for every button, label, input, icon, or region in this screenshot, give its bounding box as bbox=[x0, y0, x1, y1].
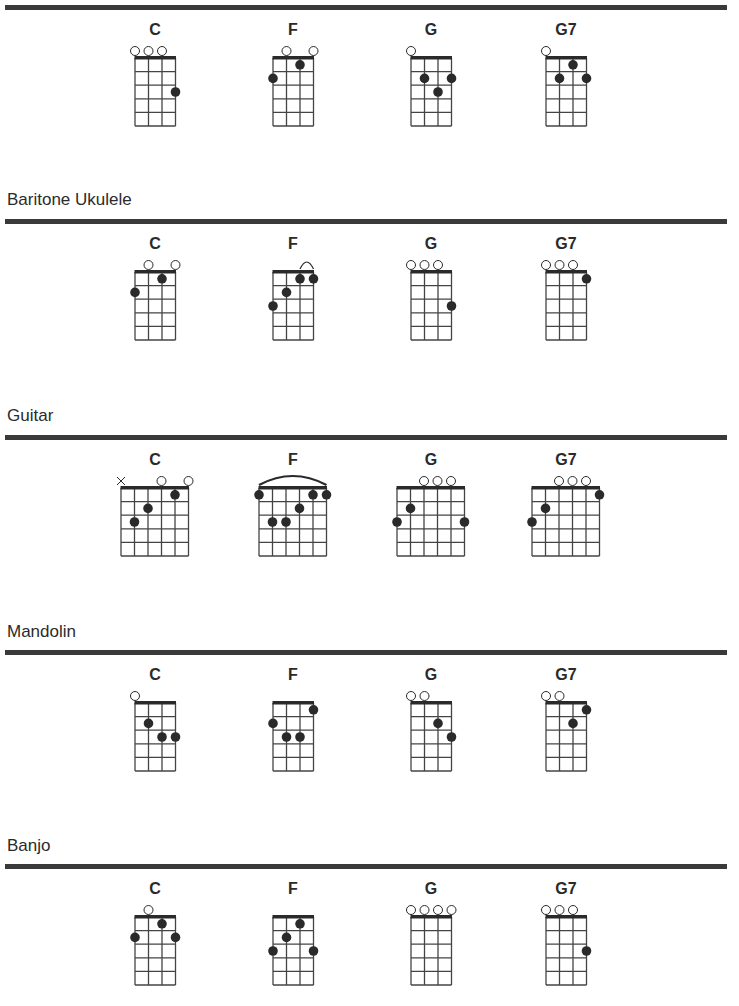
open-string-icon bbox=[157, 47, 166, 56]
open-string-icon bbox=[568, 261, 577, 270]
open-string-icon bbox=[568, 906, 577, 915]
finger-dot-icon bbox=[581, 274, 591, 284]
finger-dot-icon bbox=[308, 946, 318, 956]
open-string-icon bbox=[282, 47, 291, 56]
open-string-icon bbox=[541, 692, 550, 701]
chord-name: G7 bbox=[536, 666, 596, 684]
open-string-icon bbox=[420, 261, 429, 270]
chord-diagram bbox=[263, 897, 324, 995]
chord-name: G bbox=[401, 21, 461, 39]
nut bbox=[410, 701, 452, 705]
open-string-icon bbox=[144, 906, 153, 915]
chord-name: C bbox=[125, 666, 185, 684]
open-string-icon bbox=[309, 47, 318, 56]
chord-name: F bbox=[263, 21, 323, 39]
finger-dot-icon bbox=[281, 933, 291, 943]
open-string-icon bbox=[406, 261, 415, 270]
nut bbox=[545, 701, 587, 705]
chord-diagram bbox=[401, 683, 462, 781]
chord-diagram bbox=[125, 897, 186, 995]
chord-diagram bbox=[387, 468, 475, 566]
chord-name: F bbox=[263, 235, 323, 253]
finger-dot-icon bbox=[268, 301, 278, 311]
chord-name: F bbox=[263, 451, 323, 469]
finger-dot-icon bbox=[170, 87, 180, 97]
finger-dot-icon bbox=[130, 933, 140, 943]
open-string-icon bbox=[555, 692, 564, 701]
section-label: Banjo bbox=[7, 836, 50, 856]
finger-dot-icon bbox=[581, 946, 591, 956]
nut bbox=[134, 915, 176, 919]
open-string-icon bbox=[144, 261, 153, 270]
finger-dot-icon bbox=[308, 274, 318, 284]
open-string-icon bbox=[568, 477, 577, 486]
open-string-icon bbox=[447, 477, 456, 486]
open-string-icon bbox=[420, 477, 429, 486]
finger-dot-icon bbox=[554, 74, 564, 84]
finger-dot-icon bbox=[268, 74, 278, 84]
chord-diagram bbox=[536, 252, 597, 350]
finger-dot-icon bbox=[568, 719, 578, 729]
chord-name: G bbox=[401, 451, 461, 469]
chord-diagram bbox=[125, 252, 186, 350]
chord-diagram bbox=[263, 683, 324, 781]
nut bbox=[134, 270, 176, 274]
finger-dot-icon bbox=[308, 490, 318, 500]
section-divider bbox=[5, 435, 727, 440]
chord-diagram bbox=[263, 252, 324, 350]
finger-dot-icon bbox=[130, 288, 140, 298]
open-string-icon bbox=[555, 477, 564, 486]
open-string-icon bbox=[541, 906, 550, 915]
open-string-icon bbox=[406, 47, 415, 56]
finger-dot-icon bbox=[170, 933, 180, 943]
muted-string-icon bbox=[117, 477, 125, 485]
finger-dot-icon bbox=[295, 60, 305, 70]
section-divider bbox=[5, 864, 727, 869]
finger-dot-icon bbox=[446, 74, 456, 84]
nut bbox=[410, 270, 452, 274]
chord-name: G bbox=[401, 666, 461, 684]
open-string-icon bbox=[447, 906, 456, 915]
chord-name: C bbox=[125, 880, 185, 898]
finger-dot-icon bbox=[281, 732, 291, 742]
chord-diagram bbox=[401, 897, 462, 995]
chord-diagram bbox=[249, 468, 337, 566]
finger-dot-icon bbox=[460, 517, 470, 527]
chord-diagram bbox=[263, 38, 324, 136]
finger-dot-icon bbox=[446, 301, 456, 311]
chord-diagram bbox=[536, 38, 597, 136]
open-string-icon bbox=[184, 477, 193, 486]
finger-dot-icon bbox=[595, 490, 605, 500]
finger-dot-icon bbox=[254, 490, 264, 500]
nut bbox=[272, 56, 314, 60]
nut bbox=[545, 915, 587, 919]
nut bbox=[121, 486, 190, 490]
open-string-icon bbox=[541, 261, 550, 270]
chord-diagram bbox=[401, 38, 462, 136]
finger-dot-icon bbox=[295, 919, 305, 929]
chord-diagram bbox=[522, 468, 610, 566]
finger-dot-icon bbox=[268, 517, 278, 527]
chord-name: G7 bbox=[536, 21, 596, 39]
finger-dot-icon bbox=[581, 705, 591, 715]
open-string-icon bbox=[171, 261, 180, 270]
nut bbox=[272, 701, 314, 705]
finger-dot-icon bbox=[170, 732, 180, 742]
chord-diagram bbox=[401, 252, 462, 350]
chord-name: C bbox=[125, 235, 185, 253]
finger-dot-icon bbox=[433, 87, 443, 97]
finger-dot-icon bbox=[281, 288, 291, 298]
finger-dot-icon bbox=[392, 517, 402, 527]
section-divider bbox=[5, 5, 727, 10]
section-label: Mandolin bbox=[7, 622, 76, 642]
finger-dot-icon bbox=[527, 517, 537, 527]
barre-arc-icon bbox=[259, 476, 327, 485]
section-divider bbox=[5, 650, 727, 655]
chord-diagram bbox=[536, 897, 597, 995]
nut bbox=[545, 270, 587, 274]
finger-dot-icon bbox=[446, 732, 456, 742]
finger-dot-icon bbox=[281, 517, 291, 527]
finger-dot-icon bbox=[295, 732, 305, 742]
open-string-icon bbox=[420, 692, 429, 701]
chord-diagram bbox=[125, 683, 186, 781]
